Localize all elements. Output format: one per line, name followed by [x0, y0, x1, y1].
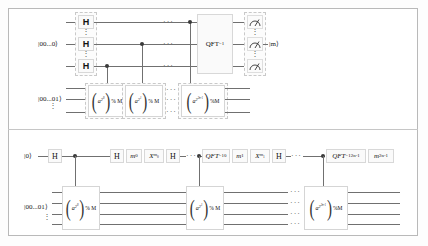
- mod-gate-expression: a22n-1: [315, 204, 327, 211]
- classical-bit-m1[interactable]: m1: [232, 149, 248, 163]
- register-ellipsis: ⋮: [42, 215, 52, 218]
- mod-gate-expression: a21: [195, 204, 204, 211]
- register-ellipsis: ⋮: [79, 30, 93, 33]
- wire: [66, 112, 86, 113]
- mod-exp-gate[interactable]: (a22n-1)%M: [304, 186, 348, 230]
- mod-gate-expression: a20: [97, 97, 106, 104]
- mod-exp-gate[interactable]: (a20)% M: [62, 186, 100, 230]
- wire: [100, 214, 186, 215]
- register-ellipsis: ⋮: [48, 104, 58, 107]
- wire: [100, 224, 186, 225]
- wire: [38, 156, 48, 157]
- bottom-control-ket: |0⟩: [24, 152, 32, 160]
- qft-label: QFT: [206, 152, 219, 160]
- control-dot: [188, 20, 192, 24]
- x-gate-m0[interactable]: Xm0: [144, 149, 164, 163]
- bottom-work-register-ket: |00...01⟩: [24, 203, 48, 211]
- classical-bit-m0[interactable]: m0: [126, 149, 142, 163]
- wire: [94, 44, 197, 45]
- wire: [225, 88, 250, 89]
- h-gate[interactable]: H: [166, 149, 180, 163]
- wire: [94, 22, 197, 23]
- x-gate-m1[interactable]: Xm1: [250, 149, 270, 163]
- h-gate[interactable]: H: [110, 149, 124, 163]
- wire: [66, 88, 86, 89]
- measurement-meter-icon[interactable]: [247, 59, 263, 73]
- register-ellipsis: ⋮: [79, 52, 93, 55]
- measurement-ellipsis: ⋮: [248, 52, 262, 55]
- wire: [263, 44, 268, 45]
- control-dot: [140, 42, 144, 46]
- wire: [224, 224, 288, 225]
- wire: [224, 192, 288, 193]
- wire: [94, 66, 197, 67]
- mod-label: % M: [147, 98, 159, 104]
- wire: [224, 203, 288, 204]
- sequence-ellipsis: ···: [166, 95, 177, 104]
- wire: [225, 112, 250, 113]
- wire: [348, 224, 400, 225]
- qft-inverse-gate-0[interactable]: QFT−10: [202, 149, 230, 163]
- mod-gate-expression: a22n-1: [192, 97, 204, 104]
- qft-label: QFT: [206, 40, 219, 48]
- wire: [224, 214, 288, 215]
- h-gate[interactable]: H: [48, 149, 62, 163]
- wire: [348, 214, 400, 215]
- top-output-ket: |m⟩: [269, 40, 279, 48]
- sequence-ellipsis: ···: [290, 209, 301, 218]
- h-gate[interactable]: H: [272, 149, 286, 163]
- wire: [348, 192, 400, 193]
- classical-bit-m-last[interactable]: m2n-1: [368, 149, 394, 163]
- top-counting-register-ket: |00...0⟩: [38, 40, 58, 48]
- wire: [62, 156, 110, 157]
- mod-exp-gate[interactable]: (a21)% M: [125, 85, 163, 117]
- sequence-ellipsis: ···: [163, 17, 174, 26]
- sequence-ellipsis: ···: [166, 85, 177, 94]
- sequence-ellipsis: ···: [166, 107, 177, 116]
- wire: [225, 99, 250, 100]
- wire: [348, 203, 400, 204]
- mod-exp-gate[interactable]: (a21)% M: [186, 186, 224, 230]
- mod-gate-expression: a20: [71, 204, 80, 211]
- qft-inverse-gate[interactable]: QFT−1: [197, 14, 233, 74]
- sequence-ellipsis: ···: [291, 151, 302, 160]
- mod-gate-expression: a21: [134, 97, 143, 104]
- sequence-ellipsis: ···: [290, 219, 301, 228]
- measurement-ellipsis: ⋮: [248, 30, 262, 33]
- qft-inverse-gate-last[interactable]: QFT−12n-1: [326, 149, 366, 163]
- wire: [66, 99, 86, 100]
- mod-exp-gate[interactable]: (a20)% M: [88, 85, 126, 117]
- figure-root: |00...0⟩ H H H ⋮ ⋮ ··· ··· ··· QFT−1 ⋮ ⋮…: [0, 0, 428, 246]
- sequence-ellipsis: ···: [163, 61, 174, 70]
- mod-label: %M: [209, 98, 219, 104]
- wire: [100, 192, 186, 193]
- qft-label: QFT: [332, 152, 345, 160]
- circuit-divider: [8, 129, 418, 130]
- mod-label: %M: [332, 205, 342, 211]
- sequence-ellipsis: ···: [290, 187, 301, 196]
- mod-label: % M: [208, 205, 220, 211]
- mod-label: % M: [110, 98, 122, 104]
- control-dot: [105, 64, 109, 68]
- wire: [100, 203, 186, 204]
- mod-exp-gate[interactable]: (a22n-1)%M: [181, 85, 225, 117]
- h-gate[interactable]: H: [78, 59, 94, 73]
- mod-label: % M: [84, 205, 96, 211]
- sequence-ellipsis: ···: [290, 198, 301, 207]
- sequence-ellipsis: ···: [163, 39, 174, 48]
- sequence-ellipsis: ···: [186, 151, 197, 160]
